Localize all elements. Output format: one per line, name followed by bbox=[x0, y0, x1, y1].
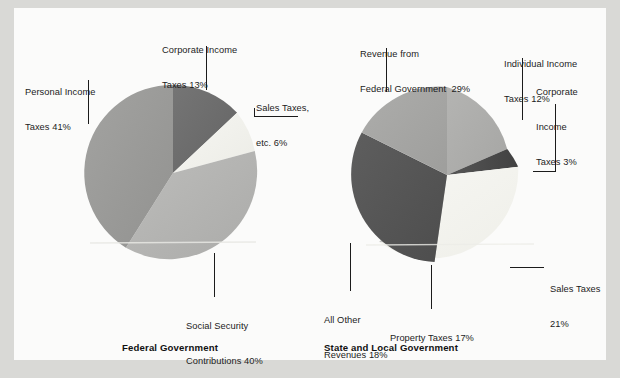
label-property-taxes: Property Taxes 17% bbox=[390, 310, 474, 368]
label-all-other-revenues-line1: All Other bbox=[324, 315, 388, 327]
label-corporate-income-taxes-right: Corporate Income Taxes 3% bbox=[536, 64, 578, 192]
label-corporate-income-taxes-right-line1: Corporate bbox=[536, 87, 578, 99]
leader-sales-taxes bbox=[510, 267, 544, 268]
label-sales-taxes-line2: 21% bbox=[550, 319, 601, 331]
label-all-other-revenues: All Other Revenues 18% bbox=[324, 292, 388, 378]
label-revenue-from-federal-government-line2: Federal Government 29% bbox=[360, 84, 470, 96]
leader-property-taxes bbox=[431, 265, 432, 309]
leader-all-other-revenues bbox=[350, 243, 351, 291]
label-revenue-from-federal-government-line1: Revenue from bbox=[360, 49, 470, 61]
figure-panel: Personal Income Taxes 41% Corporate Inco… bbox=[14, 8, 606, 360]
label-corporate-income-taxes-right-line2: Income bbox=[536, 122, 578, 134]
label-revenue-from-federal-government: Revenue from Federal Government 29% bbox=[360, 26, 470, 119]
caption-state-and-local-government: State and Local Government bbox=[324, 342, 458, 353]
label-sales-taxes-line1: Sales Taxes bbox=[550, 284, 601, 296]
label-corporate-income-taxes-right-line3: Taxes 3% bbox=[536, 157, 578, 169]
label-sales-taxes: Sales Taxes 21% bbox=[550, 261, 601, 354]
